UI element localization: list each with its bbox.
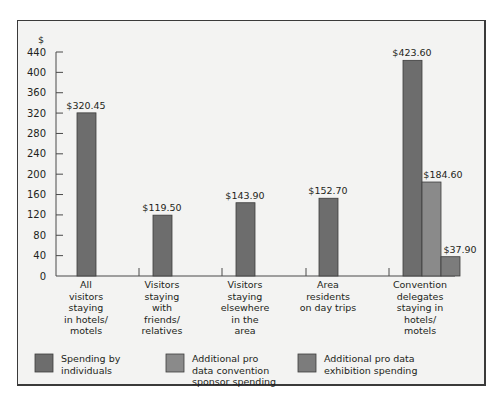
y-tick-label: 280 [27,128,46,139]
y-tick-label: 400 [27,67,46,78]
category-label: Convention [393,279,447,290]
legend-label: Spending by [61,353,121,364]
category-label: Visitors [145,279,180,290]
category-label: in the [231,314,258,325]
data-label: $152.70 [308,185,347,196]
category-label: All [80,279,92,290]
category-label: delegates [397,291,444,302]
legend-swatch [166,354,184,372]
legend-label: Additional pro data [324,353,415,364]
bar [77,113,96,276]
y-tick-label: 120 [27,209,46,220]
category-label: relatives [142,325,183,336]
bar-chart: $04080120160200240280320360400440 $320.4… [0,0,503,413]
bar [153,215,172,276]
category-label: area [234,325,255,336]
y-tick-label: 200 [27,169,46,180]
legend-swatch [298,354,316,372]
data-label: $119.50 [142,202,181,213]
data-label: $143.90 [225,190,264,201]
category-labels: Allvisitorsstayingin hotels/motelsVisito… [64,279,447,336]
y-tick-label: 40 [33,250,46,261]
category-label: hotels/ [404,314,437,325]
legend-swatch [35,354,53,372]
category-label: Area [317,279,339,290]
legend-label: exhibition spending [324,365,417,376]
data-label: $184.60 [423,169,462,180]
category-label: residents [306,291,350,302]
y-tick-label: 0 [40,271,46,282]
bar [403,60,422,276]
category-label: elsewhere [221,302,270,313]
category-label: with [152,302,172,313]
category-label: in hotels/ [64,314,109,325]
figure-caption-cutoff [17,403,487,413]
legend-label: Additional pro [192,353,258,364]
y-tick-label: 80 [33,230,46,241]
legend-label: individuals [61,365,112,376]
y-tick-label: 360 [27,87,46,98]
data-label: $320.45 [66,100,105,111]
y-axis-unit: $ [38,34,44,45]
data-label: $423.60 [392,47,431,58]
legend-label: sponsor spending [192,376,276,387]
bar [441,257,460,276]
category-label: visitors [69,291,103,302]
y-tick-label: 320 [27,108,46,119]
bar [319,198,338,276]
category-label: staying [228,291,263,302]
category-label: motels [70,325,102,336]
bar [422,182,441,276]
legend-label: data convention [192,365,269,376]
legend: Spending byindividualsAdditional prodata… [35,353,417,387]
bar [236,203,255,276]
category-label: staying in [397,302,444,313]
category-label: on day trips [300,302,357,313]
y-tick-label: 240 [27,148,46,159]
bars: $320.45$119.50$143.90$152.70$423.60$184.… [66,47,476,276]
data-label: $37.90 [443,244,476,255]
category-label: motels [404,325,436,336]
category-label: friends/ [144,314,181,325]
y-tick-label: 160 [27,189,46,200]
category-label: staying [145,291,180,302]
category-label: Visitors [228,279,263,290]
category-label: staying [69,302,104,313]
y-tick-label: 440 [27,47,46,58]
